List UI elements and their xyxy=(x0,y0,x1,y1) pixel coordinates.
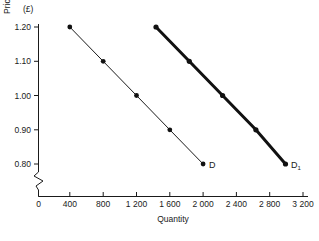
x-tick-label-1600: 1 600 xyxy=(159,199,181,209)
y-tick-label-100: 1.00 xyxy=(14,91,31,101)
y-tick-label-080: 0.80 xyxy=(14,159,31,169)
series-d-point xyxy=(167,127,172,132)
y-axis-group: 1.20 1.10 1.00 0.90 0.80 Price (£) xyxy=(2,0,43,197)
series-d1-point xyxy=(187,59,192,64)
y-tick-label-090: 0.90 xyxy=(14,125,31,135)
y-tick-label-110: 1.10 xyxy=(14,56,31,66)
series-d1-point xyxy=(153,24,158,29)
series-d1-point xyxy=(253,127,258,132)
series-d-point xyxy=(201,162,206,167)
x-tick-label-800: 800 xyxy=(96,199,110,209)
series-d-point xyxy=(101,59,106,64)
chart-screenshot: 1.20 1.10 1.00 0.90 0.80 Price (£) 0 400 xyxy=(0,0,319,241)
series-d1-label-subscript: 1 xyxy=(298,165,302,171)
series-d1-point xyxy=(283,161,288,166)
x-axis-title: Quantity xyxy=(157,214,189,224)
y-axis-title: Price xyxy=(2,0,12,14)
series-d-point xyxy=(134,93,139,98)
demand-curve-chart: 1.20 1.10 1.00 0.90 0.80 Price (£) 0 400 xyxy=(0,0,319,241)
x-tick-label-3200: 3 200 xyxy=(292,199,314,209)
x-tick-label-400: 400 xyxy=(63,199,77,209)
x-tick-label-2400: 2 400 xyxy=(226,199,248,209)
x-tick-label-1200: 1 200 xyxy=(126,199,148,209)
x-tick-label-2800: 2 800 xyxy=(259,199,281,209)
series-d1-point xyxy=(220,93,225,98)
x-axis-group: 0 400 800 1 200 1 600 2 000 2 400 2 800 … xyxy=(36,192,314,224)
y-tick-label-120: 1.20 xyxy=(14,22,31,32)
series-d-label: D xyxy=(209,160,216,170)
y-axis-break-icon xyxy=(34,172,43,190)
series-d: D xyxy=(67,25,216,170)
x-tick-label-0: 0 xyxy=(36,199,41,209)
y-axis-unit-label: (£) xyxy=(23,4,34,14)
series-d1: D 1 xyxy=(153,24,301,171)
series-d-point xyxy=(67,25,72,30)
x-tick-label-2000: 2 000 xyxy=(192,199,214,209)
